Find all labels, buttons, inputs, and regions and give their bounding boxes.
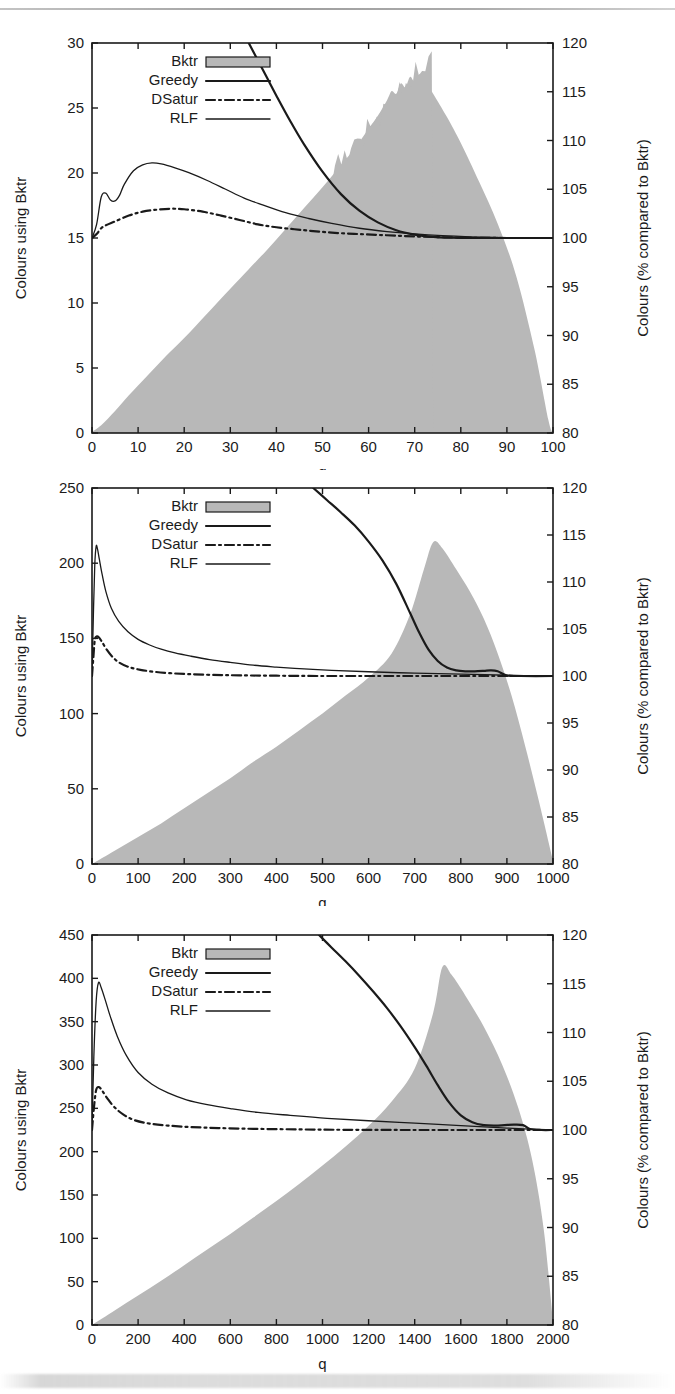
legend-label-bktr: Bktr [171,52,198,69]
x-tick-label: 400 [172,1330,197,1347]
y-tick-label-left: 10 [67,294,84,311]
y-tick-label-right: 100 [562,229,587,246]
y-axis-title-left: Colours using Bktr [12,1069,29,1192]
y-tick-label-left: 25 [67,99,84,116]
y-tick-label-left: 50 [67,780,84,797]
y-tick-label-left: 250 [59,1099,84,1116]
x-tick-label: 0 [88,438,96,455]
y-tick-label-left: 150 [59,629,84,646]
legend-label-dsatur: DSatur [151,90,198,107]
y-tick-label-right: 85 [562,375,579,392]
y-tick-label-right: 115 [562,526,586,543]
x-tick-label: 20 [176,438,193,455]
legend-label-rlf: RLF [170,554,198,571]
x-tick-label: 500 [310,869,335,886]
x-tick-label: 600 [218,1330,243,1347]
legend-label-bktr: Bktr [171,944,198,961]
y-tick-label-right: 110 [562,573,586,590]
chart-svg-1: 0102030405060708090100051015202530808590… [0,8,675,470]
legend-label-bktr: Bktr [171,497,198,514]
x-tick-label: 1000 [306,1330,339,1347]
series-area-bktr [92,965,553,1325]
x-tick-label: 200 [172,869,197,886]
y-tick-label-right: 120 [562,926,587,943]
y-tick-label-left: 200 [59,1143,84,1160]
legend-label-rlf: RLF [170,1001,198,1018]
x-tick-label: 100 [126,869,151,886]
chart-panel-2: 0100200300400500600700800900100005010015… [0,470,675,906]
y-tick-label-right: 110 [562,1024,586,1041]
y-tick-label-left: 20 [67,164,84,181]
chart-panel-3: 0200400600800100012001400160018002000050… [0,906,675,1376]
x-tick-label: 1600 [444,1330,477,1347]
chart-svg-3: 0200400600800100012001400160018002000050… [0,906,675,1376]
y-tick-label-left: 5 [76,359,84,376]
series-area-bktr [92,541,553,864]
y-tick-label-right: 120 [562,34,587,51]
x-tick-label: 800 [264,1330,289,1347]
y-tick-label-right: 100 [562,1121,587,1138]
y-tick-label-right: 95 [562,278,579,295]
y-tick-label-left: 200 [59,554,84,571]
y-tick-label-left: 400 [59,969,84,986]
x-tick-label: 10 [130,438,147,455]
x-tick-label: 70 [406,438,423,455]
y-tick-label-right: 115 [562,975,586,992]
x-tick-label: 0 [88,869,96,886]
y-tick-label-right: 80 [562,424,579,441]
chart-svg-2: 0100200300400500600700800900100005010015… [0,470,675,906]
y-tick-label-left: 30 [67,34,84,51]
y-tick-label-right: 110 [562,132,586,149]
y-tick-label-left: 50 [67,1273,84,1290]
x-tick-label: 30 [222,438,239,455]
y-axis-title-left: Colours using Bktr [12,177,29,300]
y-tick-label-right: 85 [562,808,579,825]
y-tick-label-left: 450 [59,926,84,943]
y-tick-label-right: 80 [562,1316,579,1333]
x-tick-label: 50 [314,438,331,455]
legend-label-dsatur: DSatur [151,535,198,552]
x-tick-label: 1400 [398,1330,431,1347]
legend-key-bktr [206,949,270,959]
x-axis-title: q [318,463,326,470]
legend-key-bktr [206,502,270,512]
x-tick-label: 600 [356,869,381,886]
y-tick-label-right: 90 [562,327,579,344]
y-tick-label-right: 90 [562,1219,579,1236]
y-tick-label-left: 300 [59,1056,84,1073]
y-tick-label-left: 350 [59,1013,84,1030]
x-tick-label: 0 [88,1330,96,1347]
y-tick-label-left: 150 [59,1186,84,1203]
x-tick-label: 800 [448,869,473,886]
y-tick-label-right: 95 [562,1170,579,1187]
y-axis-title-right: Colours (% compared to Bktr) [634,1031,651,1229]
y-tick-label-right: 105 [562,180,587,197]
x-tick-label: 400 [264,869,289,886]
y-tick-label-right: 85 [562,1267,579,1284]
legend-label-greedy: Greedy [149,71,199,88]
y-tick-label-left: 0 [76,855,84,872]
x-tick-label: 80 [452,438,469,455]
y-tick-label-left: 250 [59,479,84,496]
y-tick-label-right: 95 [562,714,579,731]
x-axis-title: q [318,1355,326,1372]
y-tick-label-right: 105 [562,620,587,637]
y-tick-label-left: 15 [67,229,84,246]
legend-label-dsatur: DSatur [151,982,198,999]
page-bottom-smudge [0,1374,675,1388]
x-tick-label: 700 [402,869,427,886]
y-tick-label-left: 0 [76,424,84,441]
legend-label-greedy: Greedy [149,516,199,533]
legend-label-greedy: Greedy [149,963,199,980]
series-area-bktr [92,74,553,433]
chart-panel-1: 0102030405060708090100051015202530808590… [0,8,675,470]
x-tick-label: 900 [494,869,519,886]
x-tick-label: 90 [499,438,516,455]
x-axis-title: q [318,894,326,906]
y-axis-title-right: Colours (% compared to Bktr) [634,577,651,775]
x-tick-label: 1200 [352,1330,385,1347]
y-tick-label-left: 100 [59,705,84,722]
y-tick-label-right: 100 [562,667,587,684]
y-tick-label-right: 105 [562,1072,587,1089]
y-tick-label-left: 100 [59,1229,84,1246]
